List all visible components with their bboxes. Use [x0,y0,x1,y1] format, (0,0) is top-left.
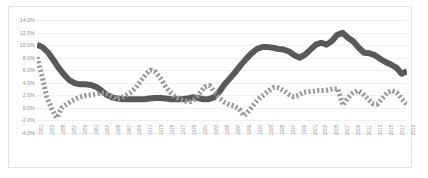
x-axis-label: 1963 [105,125,110,135]
x-axis-label: 1951 [39,125,44,135]
x-axis-label: 2019 [411,125,416,135]
x-axis-label: 2009 [356,125,361,135]
x-axis-label: 1959 [83,125,88,135]
plot-wrapper: 14.0%12.0%10.0%8.0%6.0%4.0%2.0%0.0%-2.0%… [9,7,411,167]
x-axis-label: 1961 [94,125,99,135]
x-axis-label: 1991 [258,125,263,135]
x-axis-label: 1969 [137,125,142,135]
y-axis-label: 0.0% [23,105,35,111]
x-axis-label: 2013 [378,125,383,135]
x-axis-label: 1979 [192,125,197,135]
x-axis-label: 1953 [50,125,55,135]
y-axis-label: 14.0% [20,17,35,23]
x-axis-label: 2017 [400,125,405,135]
x-axis-label: 2001 [313,125,318,135]
x-axis-label: 1999 [302,125,307,135]
x-axis: 1951195319551957195919611963196519671969… [37,133,407,173]
x-axis-label: 1975 [170,125,175,135]
x-axis-label: 1955 [61,125,66,135]
x-axis-label: 2011 [367,125,372,135]
x-axis-label: 2007 [345,125,350,135]
x-axis-label: 1993 [269,125,274,135]
y-axis-label: 8.0% [23,55,35,61]
x-axis-label: 1967 [127,125,132,135]
x-axis-label: 1995 [280,125,285,135]
x-axis-label: 1983 [214,125,219,135]
x-axis-label: 1981 [203,125,208,135]
chart-panel: 14.0%12.0%10.0%8.0%6.0%4.0%2.0%0.0%-2.0%… [8,6,412,168]
y-axis-label: -4.0% [21,130,35,136]
x-axis-label: 1985 [225,125,230,135]
x-axis-label: 1973 [159,125,164,135]
x-axis-label: 1977 [181,125,186,135]
x-axis-label: 2003 [323,125,328,135]
y-axis-label: 6.0% [23,67,35,73]
x-axis-label: 1965 [116,125,121,135]
y-axis-label: 2.0% [23,92,35,98]
x-axis-label: 1957 [72,125,77,135]
y-axis-label: -2.0% [21,117,35,123]
series-line [37,33,407,99]
x-axis-label: 1987 [236,125,241,135]
x-axis-label: 1971 [148,125,153,135]
y-axis-label: 10.0% [20,42,35,48]
y-axis: 14.0%12.0%10.0%8.0%6.0%4.0%2.0%0.0%-2.0%… [11,7,35,167]
y-axis-label: 4.0% [23,80,35,86]
x-axis-label: 1989 [247,125,252,135]
x-axis-label: 2015 [389,125,394,135]
y-axis-label: 12.0% [20,30,35,36]
x-axis-label: 1997 [291,125,296,135]
x-axis-label: 2005 [334,125,339,135]
